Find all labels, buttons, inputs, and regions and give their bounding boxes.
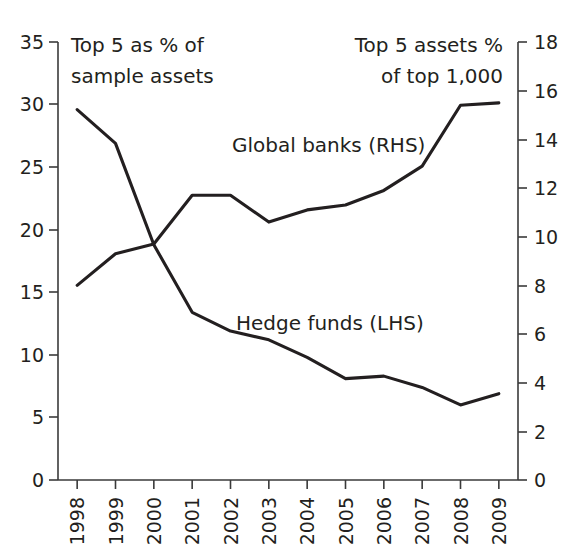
left-tick-label-35: 35 [20,31,44,53]
x-tick-label-2003: 2003 [258,497,280,544]
x-tick-label-2005: 2005 [335,497,357,544]
x-tick-label-2009: 2009 [488,497,510,544]
x-axis-tick-labels: 1998199920002001200220032004200520062007… [66,497,510,544]
left-axis: 35 30 25 20 15 10 5 0 [20,31,58,491]
x-tick-label-2007: 2007 [411,497,433,544]
left-tick-label-20: 20 [20,219,44,241]
chart-canvas: 35 30 25 20 15 10 5 0 [0,0,579,544]
left-tick-label-0: 0 [32,469,44,491]
right-tick-label-4: 4 [534,372,546,394]
right-axis-ticks [518,42,527,480]
global-banks-series-label: Global banks (RHS) [232,133,425,157]
right-tick-label-14: 14 [534,129,558,151]
left-tick-label-5: 5 [32,406,44,428]
x-axis-ticks [77,480,499,489]
x-tick-label-1999: 1999 [105,497,127,544]
x-tick-label-2001: 2001 [181,497,203,544]
right-tick-label-2: 2 [534,421,546,443]
series-line-global-banks [77,103,499,285]
left-axis-tick-labels: 35 30 25 20 15 10 5 0 [20,31,44,491]
chart-container: 35 30 25 20 15 10 5 0 [0,0,579,544]
x-tick-label-2004: 2004 [296,497,318,544]
right-tick-label-10: 10 [534,226,558,248]
right-tick-label-8: 8 [534,275,546,297]
right-axis-tick-labels: 18 16 14 12 10 8 6 4 2 0 [534,31,558,491]
right-tick-label-12: 12 [534,177,558,199]
x-tick-label-1998: 1998 [66,497,88,544]
left-axis-caption-line-2: sample assets [71,64,214,88]
left-tick-label-30: 30 [20,93,44,115]
left-axis-ticks [49,42,58,480]
x-tick-label-2008: 2008 [450,497,472,544]
right-axis-caption-line-2: of top 1,000 [381,64,503,88]
x-tick-label-2002: 2002 [220,497,242,544]
right-tick-label-0: 0 [534,469,546,491]
right-tick-label-18: 18 [534,31,558,53]
right-tick-label-6: 6 [534,323,546,345]
annotations: Top 5 as % of sample assets Top 5 assets… [70,33,503,335]
left-tick-label-10: 10 [20,344,44,366]
left-tick-label-25: 25 [20,156,44,178]
right-tick-label-16: 16 [534,80,558,102]
right-axis: 18 16 14 12 10 8 6 4 2 0 [518,31,558,491]
right-axis-caption-line-1: Top 5 assets % [354,33,503,57]
x-tick-label-2000: 2000 [143,497,165,544]
hedge-funds-series-label: Hedge funds (LHS) [236,311,424,335]
x-axis: 1998199920002001200220032004200520062007… [58,480,518,544]
x-tick-label-2006: 2006 [373,497,395,544]
left-axis-caption-line-1: Top 5 as % of [70,33,205,57]
left-tick-label-15: 15 [20,281,44,303]
